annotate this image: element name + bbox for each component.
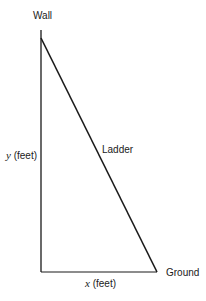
x-unit: (feet) — [93, 278, 116, 289]
y-unit: (feet) — [14, 150, 37, 161]
y-variable: y — [6, 149, 11, 161]
y-axis-label: y (feet) — [6, 149, 37, 162]
x-variable: x — [85, 277, 90, 289]
wall-label: Wall — [33, 10, 52, 22]
x-axis-label: x (feet) — [85, 277, 116, 290]
ground-label: Ground — [166, 267, 199, 279]
ladder-line — [41, 38, 157, 272]
ladder-label: Ladder — [102, 144, 133, 156]
